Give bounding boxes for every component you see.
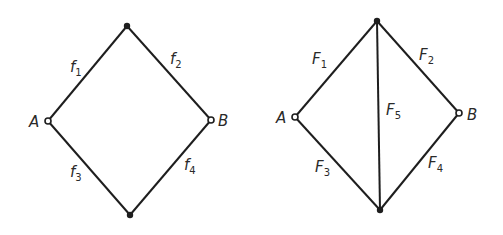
edge-label-F4: F4: [428, 154, 443, 174]
edge-label-F2: F2: [419, 46, 434, 66]
node-top: [124, 23, 130, 29]
node-b-label: B: [467, 106, 477, 124]
edge-f1: [48, 26, 127, 121]
edge-label-f4: f4: [184, 156, 196, 176]
node-b-label: B: [218, 112, 228, 130]
edge-label-f2: f2: [170, 50, 182, 70]
edge-label-f3: f3: [70, 163, 82, 183]
network-diagrams: A B f1 f2 f3 f4 A B F1 F2 F3 F4 F5: [0, 0, 503, 235]
node-bottom: [377, 207, 383, 213]
edge-F3: [295, 117, 380, 210]
edge-F5: [377, 21, 380, 210]
right-network: A B F1 F2 F3 F4 F5: [275, 18, 477, 213]
edge-label-F1: F1: [312, 50, 327, 70]
edge-label-F5: F5: [386, 101, 401, 121]
node-a-label: A: [28, 113, 39, 131]
node-top: [374, 18, 380, 24]
node-a: [45, 118, 51, 124]
edge-F4: [380, 113, 459, 210]
node-a-label: A: [275, 109, 286, 127]
node-bottom: [127, 212, 133, 218]
edge-f3: [48, 121, 130, 215]
left-network: A B f1 f2 f3 f4: [28, 23, 228, 218]
edge-F2: [377, 21, 459, 113]
node-b: [208, 117, 214, 123]
edge-f2: [127, 26, 211, 120]
edge-f4: [130, 120, 211, 215]
edge-label-f1: f1: [70, 58, 82, 78]
node-b: [456, 110, 462, 116]
edge-label-F3: F3: [315, 158, 330, 178]
edge-F1: [295, 21, 377, 117]
node-a: [292, 114, 298, 120]
